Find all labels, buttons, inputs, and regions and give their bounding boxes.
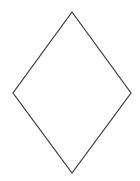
diagram-svg (0, 0, 140, 181)
diamond-shape (13, 12, 131, 173)
diagram-canvas (0, 0, 140, 181)
